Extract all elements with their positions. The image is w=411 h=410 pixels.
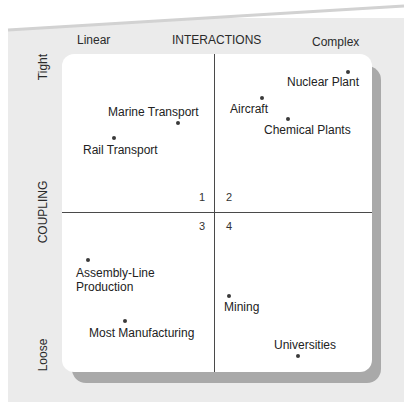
point-label-universities: Universities <box>274 338 336 352</box>
data-point-dot <box>346 70 350 74</box>
quadrant-1-number: 1 <box>199 191 205 203</box>
quadrant-panel <box>62 54 372 372</box>
data-point-dot <box>296 354 300 358</box>
data-point-dot <box>227 294 231 298</box>
vertical-divider <box>214 54 215 372</box>
y-axis-high-label: Tight <box>36 52 50 82</box>
quadrant-3-number: 3 <box>199 220 205 232</box>
point-label-production: Production <box>76 280 133 294</box>
page-curl-decoration <box>0 0 411 32</box>
data-point-dot <box>286 117 290 121</box>
quadrant-4-number: 4 <box>226 220 232 232</box>
data-point-dot <box>176 121 180 125</box>
quadrant-2-number: 2 <box>226 191 232 203</box>
data-point-dot <box>112 136 116 140</box>
point-label-nuclear-plant: Nuclear Plant <box>287 75 359 89</box>
point-label-most-manufacturing: Most Manufacturing <box>89 326 194 340</box>
point-label-aircraft: Aircraft <box>230 102 268 116</box>
y-axis-title: COUPLING <box>36 177 50 247</box>
point-label-mining: Mining <box>224 300 259 314</box>
y-axis-low-label: Loose <box>36 335 50 375</box>
x-axis-title: INTERACTIONS <box>172 33 261 47</box>
data-point-dot <box>123 319 127 323</box>
point-label-chemical-plants: Chemical Plants <box>264 123 351 137</box>
x-axis-high-label: Complex <box>312 35 359 49</box>
point-label-marine-transport: Marine Transport <box>108 105 199 119</box>
point-label-rail-transport: Rail Transport <box>83 143 158 157</box>
data-point-dot <box>86 258 90 262</box>
horizontal-divider <box>62 212 372 213</box>
x-axis-low-label: Linear <box>77 33 110 47</box>
point-label-assembly-line: Assembly-Line <box>76 266 155 280</box>
data-point-dot <box>260 96 264 100</box>
